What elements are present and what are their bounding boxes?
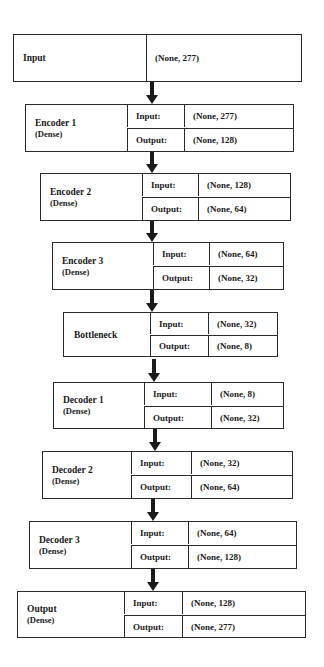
encoder-3-layer-box: Encoder 3 (Dense) Input: Output: (None, … [52,242,284,290]
flow-arrow [148,359,160,382]
output-shape: (None, 64) [200,482,240,492]
encoder-2-layer-box: Encoder 2 (Dense) Input: Output: (None, … [40,173,291,221]
output-label-cell: Output: [127,128,184,151]
input-shape: (None, 277) [193,111,237,121]
input-label: Input: [162,249,187,259]
output-label: Output: [133,622,164,632]
output-shape-cell: (None, 128) [188,545,296,568]
input-label: Input: [133,598,158,608]
output-layer-box: Output (Dense) Input: Output: (None, 128… [17,591,306,638]
output-label: Output: [140,482,171,492]
layer-shape: (None, 277) [155,53,199,63]
layer-type: (Dense) [63,406,90,417]
decoder-3-layer-box: Decoder 3 (Dense) Input: Output: (None, … [29,521,297,569]
layer-name: Encoder 3 [62,255,103,267]
output-shape-cell: (None, 32) [209,266,283,289]
output-label: Output: [140,552,171,562]
decoder-2-layer-box: Decoder 2 (Dense) Input: Output: (None, … [42,451,293,499]
flow-arrow [149,429,161,451]
output-label-cell: Output: [153,266,209,289]
input-shape: (None, 32) [217,319,257,329]
input-label-cell: Input: [150,313,208,334]
layer-name-cell: Output (Dense) [18,592,124,637]
input-label: Input: [151,180,176,190]
input-shape-cell: (None, 64) [209,243,283,265]
layer-name: Output [27,603,57,615]
output-shape-cell: (None, 32) [211,406,283,428]
layer-name-cell: Decoder 1 (Dense) [54,383,144,428]
encoder-1-layer-box: Encoder 1 (Dense) Input: Output: (None, … [25,104,294,152]
layer-name-cell: Encoder 3 (Dense) [53,243,153,289]
output-shape: (None, 128) [193,135,237,145]
input-label-cell: Input: [131,522,188,544]
output-label: Output: [153,413,184,423]
layer-name-cell: Decoder 2 (Dense) [43,452,131,498]
output-label: Output: [136,135,167,145]
input-shape: (None, 8) [220,389,255,399]
layer-name: Decoder 1 [63,394,104,406]
flow-arrow [146,152,158,173]
input-layer-box: Input (None, 277) [13,34,302,82]
layer-shape-cell: (None, 277) [146,35,301,81]
layer-type: (Dense) [52,476,79,487]
input-shape: (None, 64) [197,528,237,538]
output-shape-cell: (None, 64) [198,197,290,220]
flow-arrow [147,499,159,521]
output-label-cell: Output: [144,406,211,428]
input-shape-cell: (None, 8) [211,383,283,405]
output-shape-cell: (None, 8) [208,335,277,356]
layer-name: Encoder 1 [35,117,76,129]
layer-name-cell: Decoder 3 (Dense) [30,522,131,568]
layer-name-cell: Input [14,35,146,81]
input-shape: (None, 32) [200,458,240,468]
input-shape-cell: (None, 64) [188,522,296,544]
input-label-cell: Input: [153,243,209,265]
input-shape: (None, 128) [207,180,251,190]
output-shape: (None, 277) [191,622,235,632]
input-label: Input: [159,319,184,329]
input-label-cell: Input: [144,383,211,405]
layer-name-cell: Encoder 2 (Dense) [41,174,142,220]
input-shape-cell: (None, 32) [191,452,292,474]
bottleneck-layer-box: Bottleneck Input: Output: (None, 32) (No… [63,312,278,357]
layer-name: Encoder 2 [50,186,91,198]
layer-name-cell: Bottleneck [64,313,150,356]
output-shape: (None, 32) [220,413,260,423]
output-label-cell: Output: [150,335,208,356]
output-shape-cell: (None, 277) [182,615,305,637]
input-label-cell: Input: [142,174,198,196]
output-shape: (None, 128) [197,552,241,562]
layer-type: (Dense) [39,546,66,557]
output-label: Output: [159,341,190,351]
layer-type: (Dense) [62,267,89,278]
input-label-cell: Input: [127,105,184,127]
output-label: Output: [151,204,182,214]
layer-name-cell: Encoder 1 (Dense) [26,105,127,151]
output-label-cell: Output: [131,475,191,498]
input-shape-cell: (None, 128) [182,592,305,614]
flow-arrow [146,82,158,104]
input-shape: (None, 128) [191,598,235,608]
input-shape-cell: (None, 32) [208,313,277,334]
output-label-cell: Output: [142,197,198,220]
layer-name: Decoder 2 [52,464,93,476]
layer-type: (Dense) [50,198,77,209]
input-label: Input: [153,389,178,399]
layer-type: (Dense) [35,129,62,140]
layer-name: Decoder 3 [39,534,80,546]
layer-type: (Dense) [27,615,54,626]
input-shape: (None, 64) [218,249,258,259]
output-shape-cell: (None, 128) [184,128,293,151]
output-label: Output: [162,273,193,283]
output-shape-cell: (None, 64) [191,475,292,498]
output-label-cell: Output: [131,545,188,568]
layer-name: Bottleneck [74,329,117,341]
flow-arrow [146,290,158,312]
input-shape-cell: (None, 128) [198,174,290,196]
output-label-cell: Output: [124,615,182,637]
input-label-cell: Input: [131,452,191,474]
flow-arrow [146,221,158,242]
input-label: Input: [140,528,165,538]
output-shape: (None, 32) [218,273,258,283]
output-shape: (None, 64) [207,204,247,214]
